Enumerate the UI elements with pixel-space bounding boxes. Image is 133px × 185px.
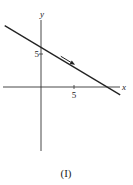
x-axis-label: x: [121, 82, 126, 92]
graph-figure: 5 5 x y (I): [0, 0, 133, 185]
y-tick-label: 5: [35, 49, 40, 59]
y-axis-label: y: [39, 9, 44, 19]
figure-caption: (I): [61, 167, 72, 180]
x-tick-label: 5: [72, 90, 77, 100]
function-line: [5, 26, 121, 95]
